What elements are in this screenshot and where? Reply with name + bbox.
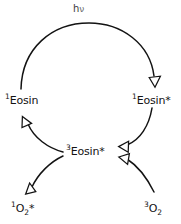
arrow-excitation-arc (21, 23, 160, 89)
species-body: Eosin (71, 145, 99, 158)
excited-state-asterisk: * (165, 94, 171, 107)
subscript-count: 2 (157, 208, 162, 217)
species-body: Eosin (137, 94, 165, 107)
excited-state-asterisk: * (99, 145, 105, 158)
arrow-intersystem-crossing-arc (119, 108, 152, 152)
photon-energy-label: hν (73, 4, 84, 14)
intersystem-crossing-arrowhead (119, 141, 129, 152)
triplet-to-ground-arrowhead (22, 116, 32, 127)
species-label-singlet-eosin-excited: 1Eosin* (132, 95, 171, 106)
arrow-triplet-to-ground-arc (22, 116, 63, 152)
arrow-singlet-oxygen-production-arc (26, 156, 63, 194)
intersystem-crossing-arc-path (127, 108, 152, 145)
species-label-singlet-eosin-ground: 1Eosin (5, 95, 38, 106)
species-body: O (149, 202, 157, 215)
scheme-vector-canvas (0, 0, 181, 224)
species-body: O (16, 202, 24, 215)
singlet-oxygen-production-arrowhead (26, 183, 36, 194)
oxygen-quenching-arrowhead (119, 154, 130, 165)
excitation-arc-arrowhead (149, 76, 160, 87)
photon-nu-symbol: ν (79, 4, 84, 14)
species-label-singlet-oxygen: 1O2* (11, 203, 35, 214)
excited-state-asterisk: * (29, 202, 35, 215)
reaction-scheme-diagram: hν 1Eosin 1Eosin* 3Eosin* 1O2* 3O2 (0, 0, 181, 224)
species-label-triplet-oxygen: 3O2 (144, 203, 162, 214)
species-label-triplet-eosin-excited: 3Eosin* (66, 146, 105, 157)
oxygen-quenching-arc-path (127, 159, 154, 192)
species-body: Eosin (10, 94, 38, 107)
singlet-oxygen-production-arc-path (32, 156, 63, 187)
triplet-to-ground-arc-path (28, 124, 63, 152)
excitation-arc-path (21, 23, 154, 89)
arrow-oxygen-quenching-arc (119, 154, 154, 192)
